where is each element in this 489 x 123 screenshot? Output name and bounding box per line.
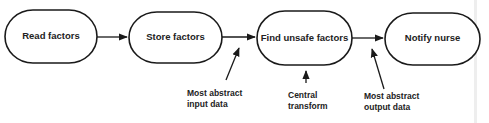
node-store-factors: Store factors xyxy=(129,12,222,63)
pointer-output-arrow xyxy=(372,49,384,89)
annotation-central: Central transform xyxy=(288,90,328,111)
node-label: Read factors xyxy=(22,30,80,41)
node-label: Notify nurse xyxy=(405,32,460,43)
pointer-input-arrow xyxy=(226,48,239,80)
node-find-unsafe-factors: Find unsafe factors xyxy=(257,11,352,65)
node-notify-nurse: Notify nurse xyxy=(385,13,480,65)
annotation-line: Central xyxy=(288,90,317,100)
annotation-line: input data xyxy=(187,99,228,109)
node-label: Store factors xyxy=(146,31,205,42)
node-read-factors: Read factors xyxy=(5,10,97,63)
annotation-output: Most abstract output data xyxy=(364,91,419,112)
node-label: Find unsafe factors xyxy=(261,32,349,43)
annotation-line: Most abstract xyxy=(364,91,419,101)
annotation-line: Most abstract xyxy=(187,88,242,98)
annotation-line: transform xyxy=(288,101,328,111)
data-flow-diagram: Read factors Store factors Find unsafe f… xyxy=(0,0,489,123)
annotation-input: Most abstract input data xyxy=(187,88,242,109)
annotation-line: output data xyxy=(364,102,411,112)
scan-artifact xyxy=(474,0,477,123)
